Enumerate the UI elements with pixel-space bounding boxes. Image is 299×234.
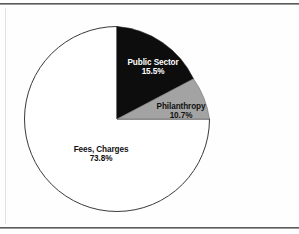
pie-label-fees-charges-value: 73.8%: [58, 154, 144, 163]
pie-label-public-sector-name: Public Sector: [113, 58, 193, 67]
pie-label-public-sector-value: 15.5%: [113, 67, 193, 76]
pie-label-philanthropy: Philanthropy 10.7%: [143, 102, 219, 120]
pie-label-fees-charges-name: Fees, Charges: [58, 145, 144, 154]
pie-label-fees-charges: Fees, Charges 73.8%: [58, 145, 144, 163]
pie-label-public-sector: Public Sector 15.5%: [113, 58, 193, 76]
page-rule-top: [0, 3, 299, 5]
scanned-page: Public Sector 15.5% Philanthropy 10.7% F…: [0, 0, 299, 234]
pie-chart: Public Sector 15.5% Philanthropy 10.7% F…: [0, 6, 299, 226]
page-rule-bottom: [0, 227, 299, 229]
pie-label-philanthropy-value: 10.7%: [143, 111, 219, 120]
pie-label-philanthropy-name: Philanthropy: [143, 102, 219, 111]
